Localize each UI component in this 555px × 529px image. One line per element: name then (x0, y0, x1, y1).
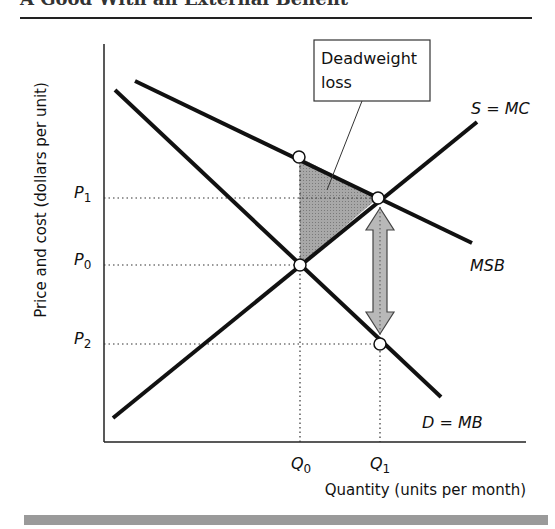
label-demand: D = MB (422, 413, 483, 432)
callout-line-2: loss (321, 73, 352, 92)
label-p2: P2 (74, 329, 91, 351)
y-axis-label: Price and cost (dollars per unit) (32, 82, 50, 318)
label-q1: Q1 (370, 454, 390, 476)
label-supply: S = MC (471, 99, 531, 118)
point-efficient-equilibrium (372, 192, 384, 204)
footer-rule (24, 515, 548, 525)
label-q0: Q0 (291, 454, 311, 476)
external-benefit-arrow (366, 208, 394, 334)
label-p0: P0 (74, 250, 91, 272)
callout-leader-line (327, 101, 362, 190)
label-msb: MSB (470, 256, 505, 275)
point-msb-at-q0 (293, 151, 305, 163)
demand-curve-d-mb (115, 90, 441, 397)
label-p1: P1 (74, 183, 91, 205)
callout-line-1: Deadweight (321, 49, 417, 68)
supply-curve-s-mc (113, 122, 477, 418)
external-benefit-diagram: Deadweight loss S = MC MSB D = MB P1 P0 … (0, 0, 555, 529)
point-p2-on-demand (374, 338, 386, 350)
x-axis-label: Quantity (units per month) (325, 481, 526, 499)
point-market-equilibrium (294, 259, 306, 271)
